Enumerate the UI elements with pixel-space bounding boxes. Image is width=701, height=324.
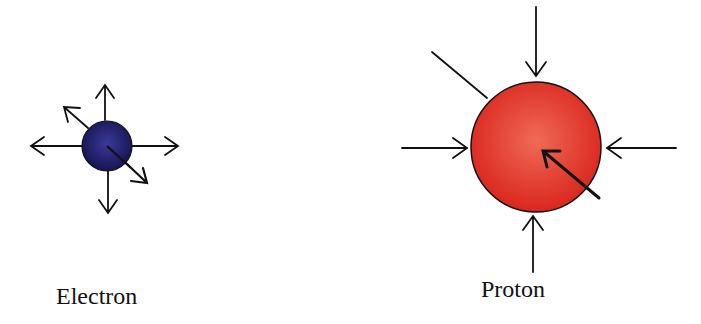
electron-arrow-down xyxy=(99,170,117,213)
particle-diagram xyxy=(0,0,701,324)
proton-sphere xyxy=(471,82,601,212)
electron-label: Electron xyxy=(56,283,137,310)
proton-arrow-left xyxy=(402,138,467,158)
electron-arrow-up xyxy=(96,85,114,120)
electron-arrow-upleft xyxy=(64,107,88,128)
proton-arrow-right xyxy=(607,138,676,158)
proton-arrow-top xyxy=(526,7,546,76)
proton-label: Proton xyxy=(481,276,545,303)
electron-arrow-right xyxy=(132,137,178,155)
electron-arrow-left xyxy=(31,137,82,155)
proton-arrow-bottom xyxy=(523,216,543,272)
proton-tangent-line xyxy=(432,52,487,98)
